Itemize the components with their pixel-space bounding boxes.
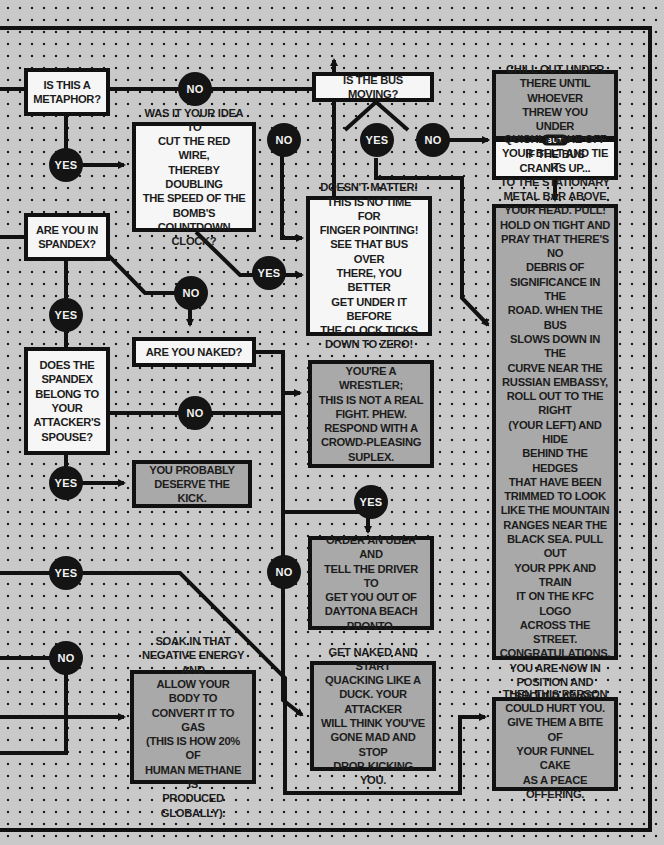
no-badge-bus-moving: NO [416, 123, 450, 157]
yes-badge-left-lower: YES [49, 556, 83, 590]
box-quickly-take-off-belt: QUICKLY TAKE OFF YOUR BELT AND TIE IT TO… [492, 204, 618, 660]
yes-badge-uber: YES [354, 485, 388, 519]
yes-badge-bus-moving: YES [360, 123, 394, 157]
box-funnel-cake: THEN THIS PERSON COULD HURT YOU. GIVE TH… [492, 697, 618, 791]
no-badge-naked: NO [267, 555, 301, 589]
no-badge-spouse: NO [178, 396, 212, 430]
no-badge-red-wire: NO [267, 123, 301, 157]
box-are-you-naked: ARE YOU NAKED? [132, 337, 256, 367]
box-red-wire: WAS IT YOUR IDEA TO CUT THE RED WIRE, TH… [132, 122, 256, 232]
box-spandex-spouse: DOES THE SPANDEX BELONG TO YOUR ATTACKER… [24, 347, 110, 455]
box-order-an-uber: ORDER AN UBER AND TELL THE DRIVER TO GET… [308, 536, 434, 630]
box-get-naked-quack: GET NAKED AND START QUACKING LIKE A DUCK… [310, 661, 436, 771]
box-is-the-bus-moving: IS THE BUS MOVING? [312, 72, 434, 102]
yes-badge-metaphor: YES [49, 148, 83, 182]
yes-badge-spouse: YES [49, 466, 83, 500]
box-youre-a-wrestler: YOU'RE A WRESTLER; THIS IS NOT A REAL FI… [308, 360, 434, 468]
box-soak-in-negative-energy: SOAK IN THAT NEGATIVE ENERGY AND ALLOW Y… [130, 670, 256, 784]
box-is-this-a-metaphor: IS THIS A METAPHOR? [24, 68, 110, 116]
box-are-you-in-spandex: ARE YOU IN SPANDEX? [24, 213, 110, 261]
box-you-probably-deserve: YOU PROBABLY DESERVE THE KICK. [132, 460, 252, 508]
yes-badge-spandex: YES [49, 298, 83, 332]
box-doesnt-matter: DOESN'T MATTER! THIS IS NO TIME FOR FING… [306, 196, 432, 336]
no-badge-left-lower: NO [49, 641, 83, 675]
no-badge-metaphor: NO [178, 72, 212, 106]
yes-badge-red-wire: YES [252, 256, 286, 290]
box-chill-out: CHILL OUT UNDER THERE UNTIL WHOEVER THRE… [492, 70, 618, 140]
no-badge-spandex: NO [174, 276, 208, 310]
